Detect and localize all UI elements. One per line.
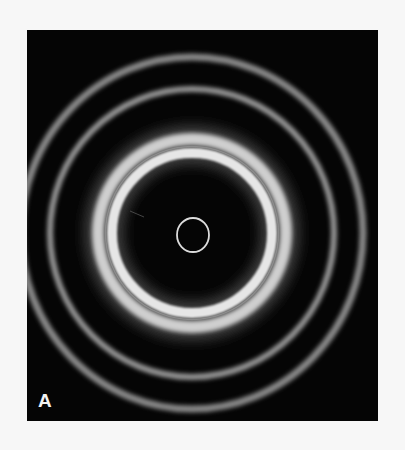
outer-ring — [27, 57, 363, 409]
panel-label: A — [38, 390, 52, 412]
inner-small-ring — [177, 218, 209, 252]
streak — [130, 211, 144, 217]
wide-band-inner — [112, 153, 272, 313]
diffraction-image: A — [27, 30, 378, 421]
wide-band-outer — [98, 139, 286, 327]
diffraction-rings — [27, 30, 378, 421]
